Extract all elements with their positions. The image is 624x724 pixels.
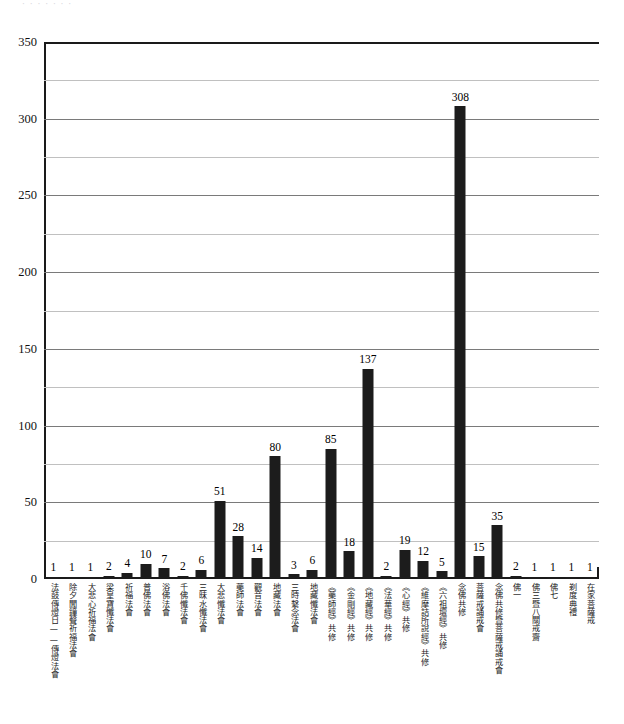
x-category-label: 《六祖壇經》共修 [437,583,446,649]
bar [177,576,188,579]
bar [362,369,373,579]
x-category-label: 念佛共修暨菩薩戒誦戒會 [493,583,502,674]
x-category-label: 浴佛法會 [160,583,169,616]
bar [381,576,392,579]
bar-value-label: 3 [291,560,297,572]
bar [436,571,447,579]
bar-value-label: 2 [383,561,389,573]
x-category-label: 藥師法會 [234,583,243,616]
bar-value-label: 1 [531,562,537,574]
bar-slot: 1 [525,42,544,579]
bar-slot: 6 [192,42,211,579]
bar [492,525,503,579]
bar-slot: 2 [377,42,396,579]
bar [529,577,540,580]
bar-value-label: 1 [87,562,93,574]
bar-value-label: 7 [161,554,167,566]
bar-slot: 5 [433,42,452,579]
bar-slot: 1 [44,42,63,579]
bar-slot: 19 [396,42,415,579]
bar-slot: 3 [285,42,304,579]
bar [122,573,133,579]
bar-slot: 14 [248,42,267,579]
x-category-label: 菩薩戒誦戒會 [474,583,483,633]
y-tick-label: 50 [25,496,38,509]
bar-slot: 1 [81,42,100,579]
bar-value-label: 80 [270,442,282,454]
bar-value-label: 6 [309,555,315,567]
bar [566,577,577,580]
x-category-label: 觀音法會 [252,583,261,616]
x-category-label: 梁皇寶懺法會 [104,583,113,633]
bar [270,456,281,579]
bar-value-label: 1 [50,562,56,574]
bar-value-label: 4 [124,558,130,570]
x-category-label: 大悲懺法會 [215,583,224,625]
bar-slot: 1 [581,42,600,579]
bar-value-label: 5 [439,557,445,569]
x-category-label: 《藥師經》共修 [326,583,335,641]
bar-value-label: 1 [587,562,593,574]
x-axis-category-labels: 法鼓傳燈日——傳燈法會除夕聞鐘聲祈福法會大悲心祈福法會梁皇寶懺法會祈福法會普佛法… [44,583,599,721]
y-tick-label: 200 [18,266,37,279]
y-tick-label: 250 [18,189,37,202]
bar-value-label: 6 [198,555,204,567]
x-category-label: 念佛共修 [456,583,465,616]
bar-slot: 1 [63,42,82,579]
bar-slot: 7 [155,42,174,579]
bar-value-label: 19 [399,535,411,547]
bar-slot: 85 [322,42,341,579]
bar [307,570,318,579]
bar-value-label: 137 [359,354,376,366]
bar [48,577,59,580]
x-category-label: 佛七 [548,583,557,600]
bar-value-label: 308 [452,92,469,104]
bar-series: 1112410726512814803685181372191253081535… [44,42,599,579]
x-category-label: 在家菩薩戒 [585,583,594,625]
x-category-label: 三時繫念法會 [289,583,298,633]
bar-slot: 308 [451,42,470,579]
bar [344,551,355,579]
bar-value-label: 1 [69,562,75,574]
bar-value-label: 85 [325,434,337,446]
x-category-label: 《心經》共修 [400,583,409,633]
bar-value-label: 2 [513,561,519,573]
bar [325,449,336,579]
bar [288,574,299,579]
bar-value-label: 1 [550,562,556,574]
x-category-label: 佛一 [511,583,520,600]
plot-area: 050100150200250300350 111241072651281480… [44,42,599,579]
bar-slot: 2 [174,42,193,579]
y-tick-label: 300 [18,112,37,125]
x-category-label: 《維摩詰所說經》共修 [419,583,428,666]
x-category-label: 除夕聞鐘聲祈福法會 [67,583,76,658]
bar-slot: 12 [414,42,433,579]
bar [473,556,484,579]
bar [418,561,429,579]
bar [159,568,170,579]
bar-value-label: 2 [180,561,186,573]
bar [196,570,207,579]
x-category-label: 法鼓傳燈日——傳燈法會 [49,583,58,678]
x-category-label: 地藏懺法會 [308,583,317,625]
bar-slot: 1 [544,42,563,579]
x-category-label: 《地藏經》共修 [363,583,372,641]
x-category-label: 大悲心祈福法會 [86,583,95,641]
bar-slot: 18 [340,42,359,579]
bar-slot: 10 [137,42,156,579]
bar-value-label: 2 [106,561,112,573]
y-tick-label: 100 [18,419,37,432]
y-tick-label: 150 [18,343,37,356]
bar [251,558,262,579]
bar-value-label: 10 [140,549,152,561]
bar [85,577,96,580]
chart-page: · · · · · · · 050100150200250300350 1112… [0,0,624,724]
bar [510,576,521,579]
bar-value-label: 18 [344,537,356,549]
bar [455,106,466,579]
bar-value-label: 14 [251,543,263,555]
bar-slot: 2 [100,42,119,579]
bar-slot: 15 [470,42,489,579]
x-category-label: 《金剛經》共修 [345,583,354,641]
bar-slot: 2 [507,42,526,579]
